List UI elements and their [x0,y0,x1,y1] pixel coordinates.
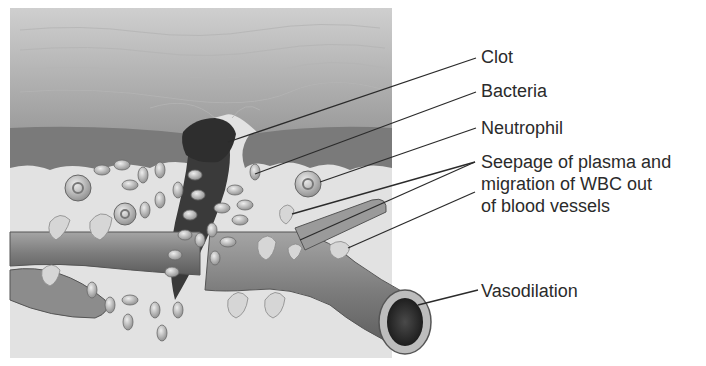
vessel-lumen [387,298,423,346]
dermis-right [242,127,392,170]
label-seepage-line-2: migration of WBC out [481,173,706,195]
label-neutrophil: Neutrophil [481,117,563,139]
label-seepage: Seepage of plasma and migration of WBC o… [481,151,706,217]
leader-vasodilation [418,290,478,305]
label-seepage-line-3: of blood vessels [481,195,706,217]
label-clot: Clot [481,46,513,68]
label-seepage-line-1: Seepage of plasma and [481,151,706,173]
label-vasodilation: Vasodilation [481,280,578,302]
label-bacteria: Bacteria [481,80,547,102]
